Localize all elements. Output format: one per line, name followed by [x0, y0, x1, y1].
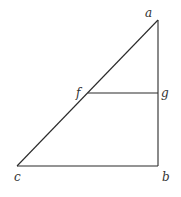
label-a: a — [145, 6, 152, 20]
label-c: c — [14, 170, 21, 184]
label-f: f — [75, 86, 83, 100]
label-g: g — [161, 86, 169, 100]
label-b: b — [162, 170, 170, 184]
triangle-diagram: a g f c b — [0, 0, 181, 197]
